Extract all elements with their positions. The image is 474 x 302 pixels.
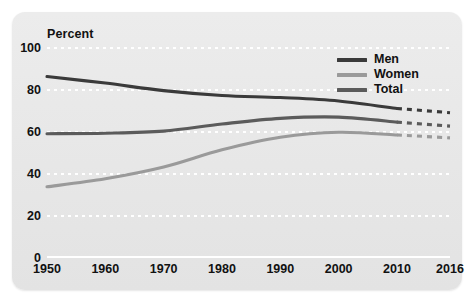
y-tick-40: 40 xyxy=(5,167,41,181)
y-tick-100: 100 xyxy=(5,41,41,55)
x-tick-1990: 1990 xyxy=(266,262,294,276)
series-projection-women xyxy=(397,135,450,138)
legend-item-women: Women xyxy=(337,68,419,81)
x-tick-2010: 2010 xyxy=(383,262,411,276)
legend-swatch-total xyxy=(337,88,367,92)
x-tick-1950: 1950 xyxy=(33,262,61,276)
series-projection-total xyxy=(397,122,450,126)
legend-swatch-men xyxy=(337,58,367,62)
x-tick-1970: 1970 xyxy=(150,262,178,276)
chart-legend: Men Women Total xyxy=(337,53,419,98)
x-tick-2016: 2016 xyxy=(436,262,464,276)
x-tick-1980: 1980 xyxy=(208,262,236,276)
y-tick-80: 80 xyxy=(5,83,41,97)
chart-screenshot: Percent 020406080100 1950196019701980199… xyxy=(0,0,474,302)
y-tick-60: 60 xyxy=(5,125,41,139)
legend-item-men: Men xyxy=(337,53,419,66)
series-line-women xyxy=(47,132,397,187)
y-axis-title: Percent xyxy=(47,27,94,41)
x-tick-2000: 2000 xyxy=(325,262,353,276)
legend-swatch-women xyxy=(337,73,367,77)
legend-label-women: Women xyxy=(374,68,419,81)
x-tick-1960: 1960 xyxy=(91,262,119,276)
y-tick-20: 20 xyxy=(5,209,41,223)
legend-label-men: Men xyxy=(374,53,399,66)
legend-label-total: Total xyxy=(374,83,403,96)
series-projection-men xyxy=(397,108,450,112)
legend-item-total: Total xyxy=(337,83,419,96)
